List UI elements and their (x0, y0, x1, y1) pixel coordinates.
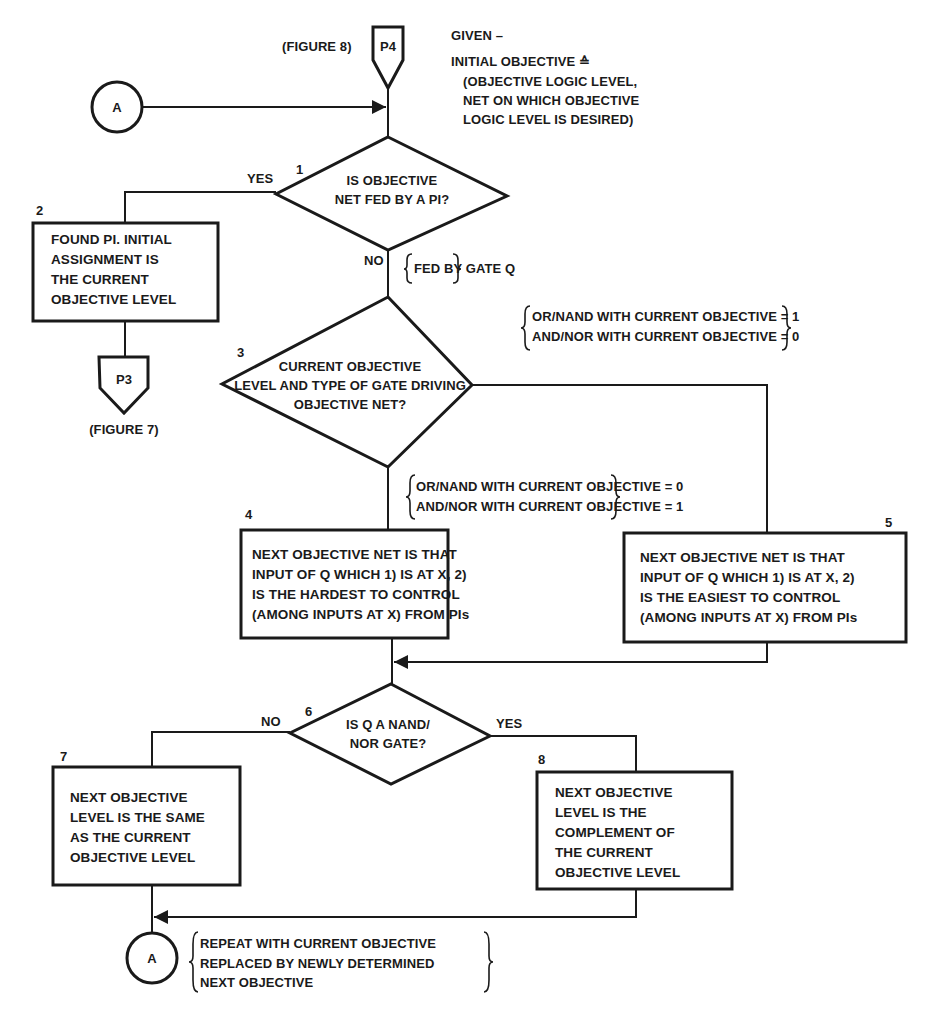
process-4-line-4[interactable]: (AMONG INPUTS AT X) FROM PIs (252, 605, 469, 625)
process-8-line-4[interactable]: THE CURRENT (555, 843, 653, 863)
edge-6-yes-label: YES (496, 714, 522, 733)
decision-3-line-3[interactable]: OBJECTIVE NET? (294, 395, 407, 414)
connector-p3-label[interactable]: P3 (116, 370, 132, 389)
process-5-line-4[interactable]: (AMONG INPUTS AT X) FROM PIs (640, 608, 857, 628)
node-8-number: 8 (538, 750, 545, 769)
node-1-number: 1 (296, 160, 303, 179)
annotation-hardest-line-2: AND/NOR WITH CURRENT OBJECTIVE = 1 (416, 497, 683, 516)
connector-p4-figure-ref: (FIGURE 8) (282, 37, 352, 56)
process-2-line-1[interactable]: FOUND PI. INITIAL (51, 230, 172, 250)
process-8-line-1[interactable]: NEXT OBJECTIVE (555, 783, 673, 803)
given-line-4: LOGIC LEVEL IS DESIRED) (463, 110, 633, 129)
annotation-hardest-line-1: OR/NAND WITH CURRENT OBJECTIVE = 0 (416, 477, 683, 496)
decision-3-line-1[interactable]: CURRENT OBJECTIVE (279, 357, 422, 376)
annotation-repeat-line-1: REPEAT WITH CURRENT OBJECTIVE (200, 934, 436, 953)
process-4-line-1[interactable]: NEXT OBJECTIVE NET IS THAT (252, 545, 457, 565)
given-line-2: (OBJECTIVE LOGIC LEVEL, (463, 72, 637, 91)
given-title: GIVEN – (451, 26, 503, 45)
process-4-line-3[interactable]: IS THE HARDEST TO CONTROL (252, 585, 460, 605)
node-4-number: 4 (245, 505, 252, 524)
connector-p4-label[interactable]: P4 (380, 37, 396, 56)
process-7-line-1[interactable]: NEXT OBJECTIVE (70, 788, 188, 808)
process-2-line-3[interactable]: THE CURRENT (51, 270, 149, 290)
decision-1-line-2[interactable]: NET FED BY A PI? (335, 190, 450, 209)
annotation-repeat-line-3: NEXT OBJECTIVE (200, 973, 313, 992)
annotation-easiest-line-1: OR/NAND WITH CURRENT OBJECTIVE = 1 (532, 307, 799, 326)
edge-6-no-label: NO (261, 712, 281, 731)
process-2-line-4[interactable]: OBJECTIVE LEVEL (51, 290, 176, 310)
annotation-easiest-line-2: AND/NOR WITH CURRENT OBJECTIVE = 0 (532, 327, 799, 346)
process-4-line-2[interactable]: INPUT OF Q WHICH 1) IS AT X, 2) (252, 565, 467, 585)
edge-1-yes-label: YES (247, 169, 273, 188)
connector-p3-figure-ref: (FIGURE 7) (89, 420, 159, 439)
decision-6-line-2[interactable]: NOR GATE? (350, 734, 427, 753)
given-line-3: NET ON WHICH OBJECTIVE (463, 91, 639, 110)
given-line-1: INITIAL OBJECTIVE ≙ (451, 52, 590, 71)
process-7-line-2[interactable]: LEVEL IS THE SAME (70, 808, 205, 828)
connector-a-bottom-label[interactable]: A (147, 949, 157, 968)
process-5-line-2[interactable]: INPUT OF Q WHICH 1) IS AT X, 2) (640, 568, 855, 588)
process-8-line-2[interactable]: LEVEL IS THE (555, 803, 647, 823)
annotation-repeat-line-2: REPLACED BY NEWLY DETERMINED (200, 954, 434, 973)
process-8-line-5[interactable]: OBJECTIVE LEVEL (555, 863, 680, 883)
node-2-number: 2 (36, 201, 43, 220)
connector-a-top-label[interactable]: A (112, 98, 122, 117)
process-7-line-4[interactable]: OBJECTIVE LEVEL (70, 848, 195, 868)
process-7-line-3[interactable]: AS THE CURRENT (70, 828, 191, 848)
node-5-number: 5 (885, 513, 892, 532)
node-3-number: 3 (237, 343, 244, 362)
decision-6-line-1[interactable]: IS Q A NAND/ (346, 715, 430, 734)
edge-1-no-label: NO (364, 251, 384, 270)
annotation-fed-by-gate: FED BY GATE Q (414, 259, 515, 278)
node-6-number: 6 (305, 702, 312, 721)
decision-3-line-2[interactable]: LEVEL AND TYPE OF GATE DRIVING (234, 376, 466, 395)
decision-1-line-1[interactable]: IS OBJECTIVE (347, 171, 438, 190)
process-2-line-2[interactable]: ASSIGNMENT IS (51, 250, 159, 270)
process-8-line-3[interactable]: COMPLEMENT OF (555, 823, 675, 843)
node-7-number: 7 (60, 747, 67, 766)
process-5-line-3[interactable]: IS THE EASIEST TO CONTROL (640, 588, 840, 608)
process-5-line-1[interactable]: NEXT OBJECTIVE NET IS THAT (640, 548, 845, 568)
